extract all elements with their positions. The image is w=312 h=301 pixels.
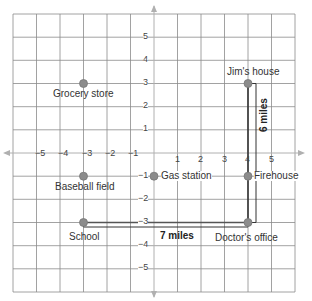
label-school: School bbox=[69, 232, 100, 242]
y-tick-neg3: −3 bbox=[138, 217, 148, 226]
x-tick-4: 4 bbox=[245, 155, 250, 164]
label-grocery-store: Grocery store bbox=[53, 89, 114, 99]
y-tick-1: 1 bbox=[143, 124, 148, 133]
point-gas-station bbox=[150, 172, 158, 180]
y-tick-neg2: −2 bbox=[138, 194, 148, 203]
x-tick-neg4: −4 bbox=[58, 149, 68, 158]
axes bbox=[5, 6, 303, 297]
y-tick-neg5: −5 bbox=[138, 263, 148, 272]
x-axis-left-arrow-icon bbox=[3, 150, 10, 156]
x-tick-neg3: −3 bbox=[82, 149, 92, 158]
y-tick-neg1: −1 bbox=[138, 171, 148, 180]
point-firehouse bbox=[244, 172, 252, 180]
label-baseball-field: Baseball field bbox=[55, 182, 114, 192]
label-doctors-office: Doctor's office bbox=[215, 233, 278, 243]
x-tick-2: 2 bbox=[198, 155, 203, 164]
y-tick-4: 4 bbox=[143, 55, 148, 64]
x-tick-neg2: −2 bbox=[105, 149, 115, 158]
x-tick-neg1: −1 bbox=[128, 149, 138, 158]
point-jims-house bbox=[244, 80, 252, 88]
y-axis-up-arrow-icon bbox=[151, 5, 157, 12]
y-tick-3: 3 bbox=[143, 78, 148, 87]
label-jims-house: Jim's house bbox=[227, 67, 280, 77]
x-tick-1: 1 bbox=[175, 155, 180, 164]
y-axis-down-arrow-icon bbox=[151, 291, 157, 298]
coordinate-grid bbox=[0, 0, 312, 301]
label-6-miles: 6 miles bbox=[259, 98, 269, 132]
label-7-miles: 7 miles bbox=[160, 231, 194, 241]
label-firehouse: Firehouse bbox=[254, 171, 298, 181]
point-doctors-office bbox=[244, 219, 252, 227]
y-tick-5: 5 bbox=[143, 32, 148, 41]
point-grocery-store bbox=[80, 80, 88, 88]
point-school bbox=[80, 219, 88, 227]
y-tick-neg4: −4 bbox=[138, 240, 148, 249]
x-tick-3: 3 bbox=[222, 155, 227, 164]
x-tick-neg5: −5 bbox=[35, 149, 45, 158]
point-baseball-field bbox=[80, 172, 88, 180]
x-tick-5: 5 bbox=[269, 155, 274, 164]
y-tick-2: 2 bbox=[143, 101, 148, 110]
label-gas-station: Gas station bbox=[161, 171, 212, 181]
x-axis-right-arrow-icon bbox=[298, 150, 305, 156]
